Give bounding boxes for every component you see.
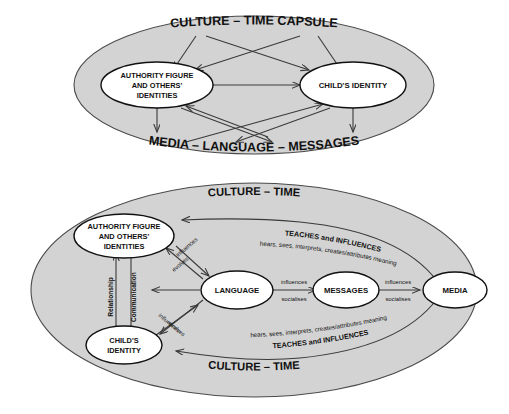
bottom-node-authority-line2: AND OTHERS' <box>99 232 150 241</box>
label-influences-lang-msg: influences <box>281 279 307 285</box>
bottom-node-language-label: LANGUAGE <box>215 286 260 295</box>
label-socialises-lang-msg: socialises <box>281 296 306 302</box>
diagram-stage: AUTHORITY FIGURE AND OTHERS' IDENTITIES … <box>0 0 509 414</box>
bottom-culture-top-label: CULTURE – TIME <box>207 185 301 199</box>
top-node-child-label: CHILD'S IDENTITY <box>319 81 388 90</box>
bottom-node-child-line1: CHILD'S <box>109 336 138 345</box>
label-relationship: Relationship <box>107 277 115 317</box>
bottom-node-child[interactable] <box>86 326 162 364</box>
top-node-authority-line1: AUTHORITY FIGURE <box>121 71 194 80</box>
bottom-node-authority-line1: AUTHORITY FIGURE <box>88 222 161 231</box>
bottom-node-authority-line3: IDENTITIES <box>104 242 145 251</box>
label-communication: Communication <box>130 272 137 322</box>
bottom-diagram: AUTHORITY FIGURE AND OTHERS' IDENTITIES … <box>31 183 487 397</box>
bottom-node-child-line2: IDENTITY <box>107 346 141 355</box>
label-influences-msg-media: influences <box>385 279 411 285</box>
bottom-node-messages-label: MESSAGES <box>324 286 368 295</box>
top-node-authority-line3: IDENTITIES <box>137 91 178 100</box>
bottom-culture-bottom-label: CULTURE – TIME <box>208 359 301 373</box>
top-diagram: AUTHORITY FIGURE AND OTHERS' IDENTITIES … <box>74 13 434 154</box>
label-socialises-msg-media: socialises <box>385 296 410 302</box>
bottom-node-media-label: MEDIA <box>442 286 467 295</box>
top-node-authority-line2: AND OTHERS' <box>132 81 183 90</box>
